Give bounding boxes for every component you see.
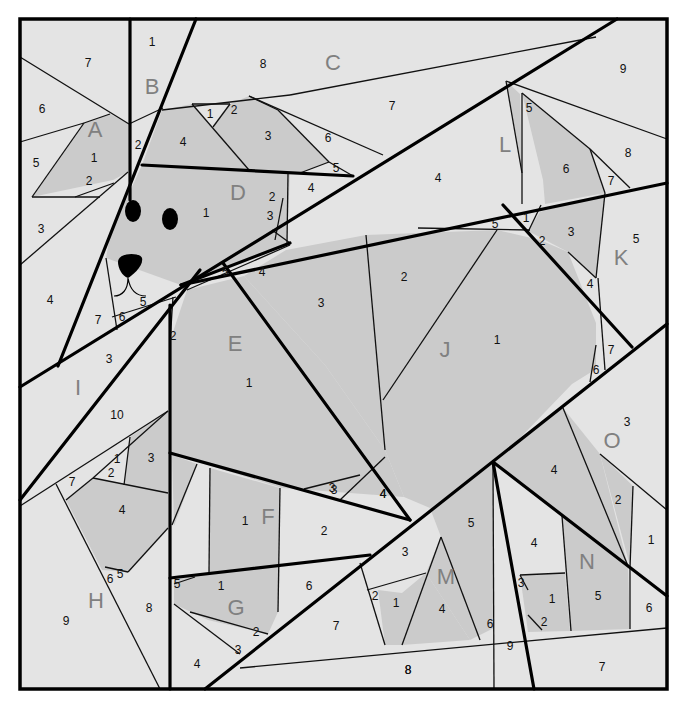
piece-number-o1: 1 (648, 533, 655, 547)
piece-number-c8: 8 (260, 57, 267, 71)
piece-number-h1: 1 (114, 452, 121, 466)
piece-number-j3: 3 (329, 481, 336, 495)
piece-number-k6: 6 (593, 363, 600, 377)
piece-number-j2: 2 (401, 270, 408, 284)
section-label-n: N (579, 549, 595, 574)
piece-number-c4: 4 (180, 135, 187, 149)
piece-number-d6: 6 (119, 310, 126, 324)
section-label-c: C (325, 50, 341, 75)
piece-number-d5: 5 (140, 295, 147, 309)
piece-number-h2: 2 (108, 466, 115, 480)
paper-piecing-pattern: A1234567B12C12345678D1234567E12345F1234G… (0, 0, 688, 704)
piece-number-f2: 2 (321, 524, 328, 538)
piece-number-a6: 6 (39, 102, 46, 116)
section-label-i: I (75, 375, 81, 400)
piece-number-d7: 7 (95, 313, 102, 327)
piece-number-d1: 1 (203, 206, 210, 220)
piece-number-k4: 4 (587, 277, 594, 291)
piece-number-l8: 8 (625, 146, 632, 160)
piece-number-n7: 7 (599, 660, 606, 674)
section-label-a: A (88, 117, 103, 142)
piece-number-b1: 1 (149, 35, 156, 49)
piece-number-o3: 3 (624, 415, 631, 429)
piece-number-h4: 4 (119, 503, 126, 517)
piece-number-a5: 5 (33, 156, 40, 170)
piece-number-e5: 5 (222, 265, 229, 279)
piece-number-d2: 2 (269, 190, 276, 204)
piece-number-k5: 5 (633, 232, 640, 246)
piece-number-g6: 6 (306, 579, 313, 593)
piece-number-e1: 1 (246, 376, 253, 390)
piece-number-o4: 4 (551, 463, 558, 477)
piece-number-n3: 3 (518, 576, 525, 590)
piece-number-n5: 5 (595, 589, 602, 603)
piece-number-c5: 5 (333, 161, 340, 175)
piece-number-m8: 8 (405, 663, 412, 677)
piece-number-c1: 1 (207, 107, 214, 121)
piece-number-k7: 7 (608, 343, 615, 357)
piece-number-l5: 5 (526, 101, 533, 115)
piece-number-k2: 2 (539, 234, 546, 248)
piece-number-f1: 1 (242, 514, 249, 528)
piece-number-m5: 5 (468, 516, 475, 530)
piece-number-l6: 6 (563, 162, 570, 176)
piece-number-j4: 4 (380, 487, 387, 501)
piece-number-a4: 4 (47, 293, 54, 307)
piece-number-m9: 9 (507, 639, 514, 653)
piece-number-m4: 4 (439, 602, 446, 616)
piece-number-m3: 3 (402, 545, 409, 559)
piece-number-i10: 10 (110, 408, 124, 422)
section-label-h: H (88, 588, 104, 613)
section-label-e: E (228, 331, 243, 356)
piece-number-l9: 9 (620, 62, 627, 76)
piece-number-n4: 4 (531, 536, 538, 550)
piece-number-a1: 1 (91, 151, 98, 165)
piece-number-h6: 6 (107, 572, 114, 586)
piece-number-l7: 7 (608, 174, 615, 188)
piece-number-c2: 2 (231, 103, 238, 117)
piece-number-n2: 2 (541, 615, 548, 629)
section-label-g: G (227, 595, 244, 620)
piece-number-g2: 2 (253, 625, 260, 639)
piece-number-j1: 1 (494, 333, 501, 347)
piece-number-c3: 3 (265, 129, 272, 143)
right-eye-icon (162, 208, 178, 230)
section-label-b: B (145, 74, 160, 99)
piece-number-h3: 3 (148, 451, 155, 465)
piece-number-g7: 7 (333, 619, 340, 633)
piece-number-n1: 1 (549, 592, 556, 606)
piece-number-b2: 2 (135, 138, 142, 152)
piece-number-m2: 2 (372, 589, 379, 603)
section-label-l: L (499, 132, 511, 157)
piece-number-l4: 4 (435, 171, 442, 185)
piece-number-m6: 6 (487, 617, 494, 631)
piece-number-k1: 1 (523, 211, 530, 225)
section-label-k: K (614, 245, 629, 270)
section-label-f: F (261, 504, 274, 529)
section-label-m: M (437, 564, 455, 589)
piece-number-e2: 2 (170, 329, 177, 343)
piece-number-e3: 3 (318, 296, 325, 310)
piece-number-a2: 2 (86, 174, 93, 188)
piece-number-g3: 3 (235, 643, 242, 657)
piece-number-h5: 5 (117, 567, 124, 581)
left-eye-icon (125, 200, 141, 222)
piece-number-g5: 5 (174, 577, 181, 591)
piece-number-g1: 1 (218, 579, 225, 593)
piece-number-m1: 1 (393, 596, 400, 610)
piece-number-d3: 3 (267, 209, 274, 223)
piece-number-k3: 3 (568, 225, 575, 239)
piece-number-c7: 7 (389, 99, 396, 113)
section-label-o: O (603, 428, 620, 453)
piece-number-c6: 6 (325, 131, 332, 145)
piece-number-a7: 7 (85, 56, 92, 70)
piece-number-a3: 3 (38, 222, 45, 236)
piece-number-g4: 4 (194, 657, 201, 671)
piece-number-j5: 5 (492, 217, 499, 231)
piece-number-e4: 4 (259, 265, 266, 279)
piece-number-d4: 4 (308, 181, 315, 195)
piece-number-h7: 7 (69, 475, 76, 489)
section-label-j: J (440, 337, 451, 362)
piece-number-n6: 6 (646, 601, 653, 615)
piece-number-i3: 3 (106, 352, 113, 366)
